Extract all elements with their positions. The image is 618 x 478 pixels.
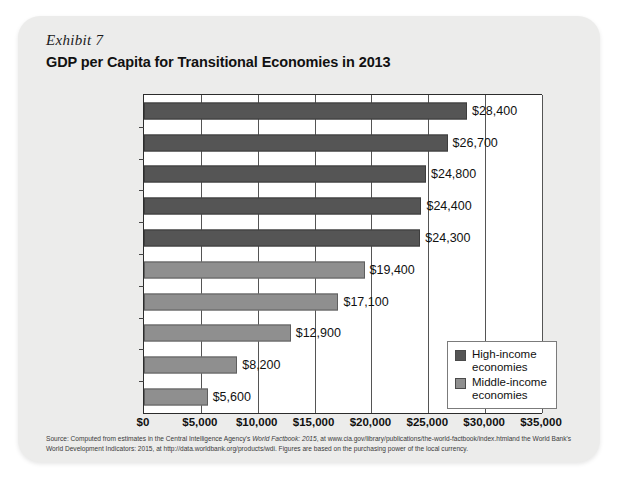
bar-value-label: $12,900	[296, 326, 341, 340]
legend-swatch-high-income-icon	[455, 350, 466, 361]
legend-swatch-middle-income-icon	[455, 378, 466, 389]
y-axis-tick	[139, 286, 144, 287]
bar-value-label: $17,100	[343, 295, 388, 309]
bar[interactable]	[144, 166, 426, 183]
y-axis-tick	[139, 254, 144, 255]
bar[interactable]	[144, 198, 421, 215]
legend-label-middle-income: Middle-income economies	[472, 376, 547, 401]
bar-value-label: $26,700	[453, 136, 498, 150]
exhibit-card: Exhibit 7 GDP per Capita for Transitiona…	[18, 16, 600, 462]
legend-label-high-income-line2: economies	[472, 361, 528, 373]
legend-label-high-income-line1: High-income	[472, 348, 537, 360]
bar-value-label: $24,800	[431, 167, 476, 181]
bar-value-label: $28,400	[472, 104, 517, 118]
x-axis-tick-label: $5,000	[182, 416, 217, 428]
x-axis-tick-label: $10,000	[236, 416, 278, 428]
source-line1: Source: Computed from estimates in the C…	[46, 435, 531, 442]
bar[interactable]	[144, 102, 467, 119]
bar-row: Poland$24,400	[144, 190, 542, 222]
bar-row: Czech Republic$28,400	[144, 95, 542, 127]
bar-value-label: $24,300	[425, 231, 470, 245]
y-axis-tick	[139, 381, 144, 382]
bar-value-label: $19,400	[370, 263, 415, 277]
bar-row: Romania$19,400	[144, 254, 542, 286]
bar[interactable]	[144, 261, 365, 278]
bar[interactable]	[144, 325, 291, 342]
source-line1-post: , at www.cia.gov/library/publications/th…	[317, 435, 531, 442]
y-axis-tick	[139, 159, 144, 160]
y-axis-tick	[139, 349, 144, 350]
y-axis-tick	[139, 127, 144, 128]
bar-value-label: $24,400	[426, 199, 471, 213]
bar-row: Russia$24,800	[144, 159, 542, 191]
legend-label-high-income: High-income economies	[472, 348, 537, 373]
bar-value-label: $5,600	[213, 390, 251, 404]
source-line1-italic: World Factbook: 2015	[252, 435, 317, 442]
chart-legend: High-income economies Middle-income econ…	[447, 341, 557, 409]
bar[interactable]	[144, 293, 338, 310]
legend-label-middle-income-line2: economies	[472, 389, 528, 401]
legend-label-middle-income-line1: Middle-income	[472, 376, 547, 388]
legend-item-high-income: High-income economies	[455, 348, 548, 373]
page-title: GDP per Capita for Transitional Economie…	[46, 54, 391, 70]
bar-row: Lithuania$26,700	[144, 127, 542, 159]
bar[interactable]	[144, 389, 208, 406]
exhibit-number: Exhibit 7	[46, 32, 103, 49]
x-axis-tick-label: $15,000	[293, 416, 335, 428]
bar[interactable]	[144, 134, 448, 151]
legend-item-middle-income: Middle-income economies	[455, 376, 548, 401]
y-axis-tick	[139, 318, 144, 319]
bar-value-label: $8,200	[242, 358, 280, 372]
source-line1-pre: Source: Computed from estimates in the C…	[46, 435, 252, 442]
bar-row: Bulgaria$17,100	[144, 286, 542, 318]
y-axis-tick	[139, 222, 144, 223]
x-axis-tick-labels: $0$5,000$10,000$15,000$20,000$25,000$30,…	[143, 416, 541, 436]
bar[interactable]	[144, 230, 420, 247]
x-axis-tick-label: $20,000	[350, 416, 392, 428]
x-axis-tick-label: $30,000	[463, 416, 505, 428]
x-axis-tick-label: $35,000	[520, 416, 562, 428]
x-axis-tick-label: $25,000	[406, 416, 448, 428]
source-note: Source: Computed from estimates in the C…	[46, 434, 578, 453]
x-axis-tick-label: $0	[137, 416, 150, 428]
bar[interactable]	[144, 357, 237, 374]
y-axis-tick	[139, 190, 144, 191]
bar-row: Hungary$24,300	[144, 222, 542, 254]
